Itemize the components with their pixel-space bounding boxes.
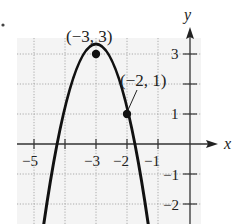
x-axis-label: x xyxy=(223,135,231,152)
x-tick-label-m3: −3 xyxy=(84,153,100,169)
y-axis-label: y xyxy=(182,6,192,24)
y-tick-label-m1: −1 xyxy=(163,167,179,183)
parabola-chart: (−3, 3) (−2, 1) x y −5 −3 −2 −1 3 1 −1 −… xyxy=(0,0,247,224)
vertex-point xyxy=(92,50,100,58)
x-tick-label-m2: −2 xyxy=(113,153,129,169)
point-label: (−2, 1) xyxy=(120,71,166,90)
x-tick-label-m1: −1 xyxy=(144,153,160,169)
point-minus2-1 xyxy=(123,110,131,118)
y-tick-label-1: 1 xyxy=(171,106,179,122)
bullet-dot xyxy=(1,23,4,26)
x-tick-label-m5: −5 xyxy=(22,153,38,169)
vertex-label: (−3, 3) xyxy=(66,27,112,46)
y-tick-label-m2: −2 xyxy=(163,197,179,213)
y-tick-label-3: 3 xyxy=(171,46,179,62)
